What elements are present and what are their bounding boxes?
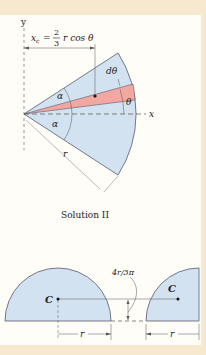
left-r-label: r: [80, 329, 85, 339]
xc-equation: x c = 2 3 r cos θ: [31, 28, 94, 48]
equation-rhs: r cos θ: [63, 33, 94, 43]
quarter-circle-centroid-dot: [177, 298, 180, 301]
figure-caption: Solution II: [61, 210, 109, 220]
alpha-top-label: α: [57, 91, 63, 101]
y-axis-label: y: [20, 17, 27, 27]
quarter-circle-centroid-label: C: [168, 283, 176, 294]
offset-leader: [128, 277, 137, 312]
theta-label: θ: [126, 97, 132, 107]
equation-fraction-denominator: 3: [54, 39, 59, 48]
circular-sector-diagram: [24, 28, 146, 192]
radius-label: r: [63, 149, 68, 159]
offset-arrow-top: [127, 300, 130, 304]
semicircle-centroid-label: C: [45, 294, 53, 305]
equation-lhs-subscript: c: [36, 37, 40, 44]
right-r-arrow: [146, 333, 151, 336]
equation-equals: =: [43, 33, 51, 43]
figure-canvas: y x x c = 2 3 r cos θ dθ θ α α r Solutio…: [0, 0, 206, 355]
xc-arrow-right: [90, 47, 95, 50]
equation-fraction-numerator: 2: [54, 28, 59, 37]
quarter-circle-region: [146, 268, 199, 321]
offset-label: 4r/3π: [111, 268, 135, 277]
offset-arrow-bottom: [127, 316, 130, 320]
dtheta-label: dθ: [106, 66, 118, 76]
radius-extension-line: [104, 176, 118, 192]
left-r-arrow: [106, 333, 111, 336]
xc-arrow-left: [24, 47, 29, 50]
x-axis-label: x: [149, 109, 154, 119]
alpha-bottom-label: α: [52, 119, 58, 129]
right-r-label: r: [170, 329, 175, 339]
semicircle-region: [5, 268, 111, 321]
